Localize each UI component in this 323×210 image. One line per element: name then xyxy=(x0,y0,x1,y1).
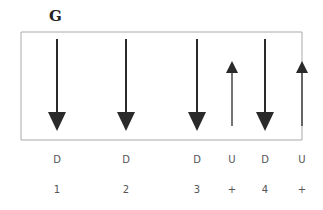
arrow-number-4: + xyxy=(222,184,242,195)
arrow-label-1: D xyxy=(47,154,67,165)
arrow-number-3: 3 xyxy=(187,184,207,195)
arrow-up-1 xyxy=(226,61,238,126)
arrow-number-6: + xyxy=(292,184,312,195)
arrow-down-4 xyxy=(256,39,274,131)
arrow-down-2 xyxy=(117,39,135,131)
frame xyxy=(21,32,302,140)
arrow-label-3: D xyxy=(187,154,207,165)
arrow-number-2: 2 xyxy=(116,184,136,195)
arrow-up-2 xyxy=(296,61,308,126)
arrow-label-2: D xyxy=(116,154,136,165)
arrow-diagram xyxy=(0,0,323,210)
arrow-number-1: 1 xyxy=(47,184,67,195)
arrow-down-1 xyxy=(48,39,66,131)
arrow-number-5: 4 xyxy=(255,184,275,195)
arrow-down-3 xyxy=(188,39,206,131)
arrow-label-4: U xyxy=(222,154,242,165)
arrow-label-5: D xyxy=(255,154,275,165)
arrow-label-6: U xyxy=(292,154,312,165)
